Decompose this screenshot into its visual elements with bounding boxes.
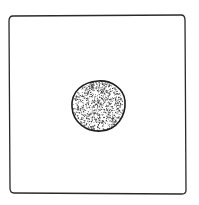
stipple-dot xyxy=(112,116,113,117)
stipple-dot xyxy=(100,109,101,110)
stipple-dot xyxy=(87,116,88,117)
stipple-dot xyxy=(90,113,91,114)
stipple-dot xyxy=(101,92,102,93)
stipple-dot xyxy=(116,106,117,107)
stipple-dot xyxy=(101,104,102,105)
stipple-dot xyxy=(102,87,103,88)
stipple-dot xyxy=(79,112,80,113)
stipple-dot xyxy=(113,123,114,124)
stipple-dot xyxy=(119,114,120,115)
stipple-dot xyxy=(83,105,84,106)
stipple-dot xyxy=(80,100,81,101)
stipple-dot xyxy=(119,101,120,102)
stipple-dot xyxy=(119,117,120,118)
stipple-dot xyxy=(96,120,97,121)
stipple-dot xyxy=(103,86,104,87)
stipple-dot xyxy=(85,120,86,121)
stipple-dot xyxy=(86,117,87,118)
stipple-dot xyxy=(78,102,79,103)
stipple-dot xyxy=(114,104,115,105)
stipple-dot xyxy=(110,115,111,116)
stipple-dot xyxy=(82,109,83,110)
stipple-dot xyxy=(114,100,115,101)
stipple-dot xyxy=(96,109,97,110)
stipple-dot xyxy=(97,100,98,101)
stipple-dot xyxy=(77,99,78,100)
stipple-dot xyxy=(100,97,101,98)
stipple-dot xyxy=(103,91,104,92)
stipple-dot xyxy=(112,101,113,102)
stipple-dot xyxy=(118,114,119,115)
stipple-dot xyxy=(119,110,120,111)
stipple-dot xyxy=(109,92,110,93)
stipple-dot xyxy=(81,101,82,102)
stipple-dot xyxy=(77,96,78,97)
stipple-dot xyxy=(91,92,92,93)
stipple-dot xyxy=(104,122,105,123)
stipple-dot xyxy=(82,96,83,97)
stipple-dot xyxy=(90,105,91,106)
stipple-dot xyxy=(77,92,78,93)
stipple-dot xyxy=(107,110,108,111)
stipple-dot xyxy=(85,90,86,91)
stipple-dot xyxy=(98,101,99,102)
stipple-dot xyxy=(114,92,115,93)
stipple-dot xyxy=(94,107,95,108)
stipple-dot xyxy=(87,102,88,103)
stipple-dot xyxy=(107,117,108,118)
stipple-dot xyxy=(94,122,95,123)
stipple-dot xyxy=(88,118,89,119)
stipple-dot xyxy=(94,119,95,120)
stipple-dot xyxy=(84,87,85,88)
stipple-dot xyxy=(104,85,105,86)
stipple-dot xyxy=(80,119,81,120)
stipple-dot xyxy=(106,120,107,121)
stipple-dot xyxy=(99,107,100,108)
stipple-dot xyxy=(88,103,89,104)
stipple-dot xyxy=(114,110,115,111)
stipple-dot xyxy=(115,90,116,91)
stipple-dot xyxy=(83,117,84,118)
stipple-dot xyxy=(110,91,111,92)
stipple-dot xyxy=(106,105,107,106)
stipple-dot xyxy=(98,111,99,112)
stipple-dot xyxy=(104,93,105,94)
stipple-dot xyxy=(86,107,87,108)
stipple-dot xyxy=(118,97,119,98)
stipple-dot xyxy=(77,115,78,116)
stipple-dot xyxy=(102,125,103,126)
stipple-dot xyxy=(114,91,115,92)
stipple-dot xyxy=(90,109,91,110)
stipple-dot xyxy=(81,111,82,112)
stipple-dot xyxy=(83,89,84,90)
stipple-dot xyxy=(100,118,101,119)
stipple-dot xyxy=(106,84,107,85)
stipple-dot xyxy=(113,98,114,99)
stipple-dot xyxy=(100,120,101,121)
stipple-dot xyxy=(117,91,118,92)
stipple-dot xyxy=(109,99,110,100)
stipple-dot xyxy=(102,121,103,122)
stipple-dot xyxy=(112,120,113,121)
stipple-dot xyxy=(102,99,103,100)
stipple-dot xyxy=(100,128,101,129)
stipple-dot xyxy=(89,124,90,125)
stipple-dot xyxy=(116,109,117,110)
stipple-dot xyxy=(94,109,95,110)
stipple-dot xyxy=(108,111,109,112)
stipple-dot xyxy=(88,123,89,124)
stipple-dot xyxy=(117,93,118,94)
stipple-dot xyxy=(103,117,104,118)
stipple-dot xyxy=(112,112,113,113)
stipple-dot xyxy=(78,118,79,119)
stipple-dot xyxy=(103,124,104,125)
stipple-dot xyxy=(96,118,97,119)
stipple-dot xyxy=(114,117,115,118)
stipple-dot xyxy=(100,103,101,104)
stipple-dot xyxy=(99,115,100,116)
stipple-dot xyxy=(97,97,98,98)
stipple-dot xyxy=(121,100,122,101)
stipple-dot xyxy=(106,110,107,111)
stipple-dot xyxy=(86,124,87,125)
stipple-dot xyxy=(97,114,98,115)
